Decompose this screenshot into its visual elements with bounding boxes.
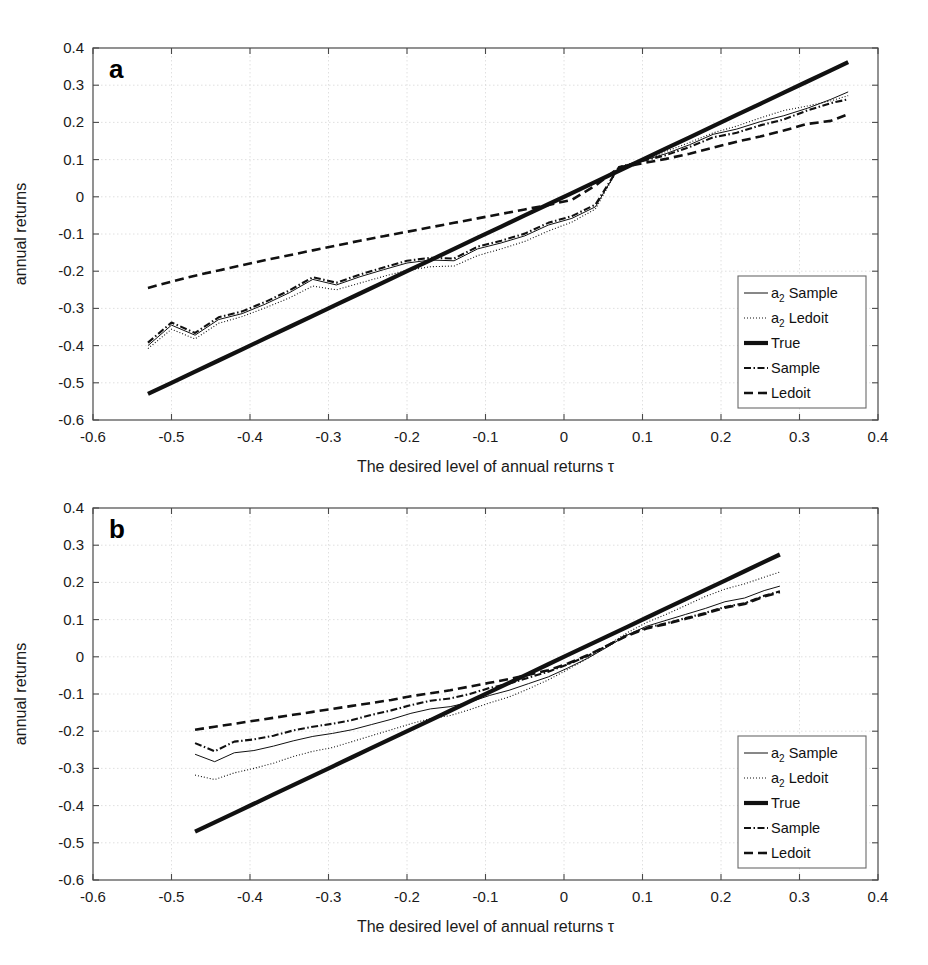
x-tick-label: -0.3 — [316, 428, 342, 445]
y-tick-label: -0.2 — [58, 262, 84, 279]
x-tick-label: -0.6 — [80, 888, 106, 905]
x-tick-label: 0 — [560, 888, 568, 905]
y-tick-label: 0 — [76, 188, 84, 205]
legend-label-sample: Sample — [771, 360, 820, 376]
y-tick-label: 0.3 — [63, 536, 84, 553]
series-line-a2-ledoit — [195, 572, 780, 780]
chart-panel-b: -0.6-0.5-0.4-0.3-0.2-0.100.10.20.30.4-0.… — [0, 460, 928, 965]
x-tick-label: 0.4 — [868, 888, 889, 905]
figure-page: -0.6-0.5-0.4-0.3-0.2-0.100.10.20.30.4-0.… — [0, 0, 928, 965]
y-tick-label: -0.1 — [58, 225, 84, 242]
y-tick-label: 0 — [76, 648, 84, 665]
legend-label-rest: Ledoit — [785, 310, 829, 326]
x-tick-label: 0 — [560, 428, 568, 445]
x-tick-label: 0.1 — [632, 888, 653, 905]
x-axis-title: The desired level of annual returns τ — [357, 918, 615, 935]
y-tick-label: 0.2 — [63, 573, 84, 590]
panel-letter-b: b — [109, 514, 125, 544]
legend-label-ledoit: Ledoit — [771, 385, 811, 401]
y-tick-label: -0.1 — [58, 685, 84, 702]
x-tick-label: 0.2 — [711, 428, 732, 445]
legend-label-true: True — [771, 795, 800, 811]
x-tick-label: 0.2 — [711, 888, 732, 905]
y-axis-title: annual returns — [12, 183, 29, 285]
legend-label-ledoit: Ledoit — [771, 845, 811, 861]
y-tick-label: -0.6 — [58, 411, 84, 428]
legend-label-true: True — [771, 335, 800, 351]
y-tick-label: 0.3 — [63, 76, 84, 93]
y-tick-label: 0.2 — [63, 113, 84, 130]
y-tick-label: -0.6 — [58, 871, 84, 888]
y-tick-label: -0.2 — [58, 722, 84, 739]
series-line-true — [195, 555, 780, 832]
x-tick-label: -0.4 — [237, 888, 263, 905]
chart-svg-b: -0.6-0.5-0.4-0.3-0.2-0.100.10.20.30.4-0.… — [0, 460, 928, 965]
x-tick-label: 0.3 — [789, 888, 810, 905]
x-tick-label: -0.1 — [473, 888, 499, 905]
x-tick-label: -0.5 — [159, 888, 185, 905]
legend-label-sample: Sample — [771, 820, 820, 836]
y-tick-label: 0.4 — [63, 499, 84, 516]
chart-panel-a: -0.6-0.5-0.4-0.3-0.2-0.100.10.20.30.4-0.… — [0, 0, 928, 482]
x-tick-label: -0.3 — [316, 888, 342, 905]
y-axis-title: annual returns — [12, 643, 29, 745]
y-tick-label: -0.5 — [58, 834, 84, 851]
y-tick-label: -0.4 — [58, 337, 84, 354]
x-tick-label: 0.3 — [789, 428, 810, 445]
x-tick-label: -0.2 — [394, 428, 420, 445]
series-line-sample — [195, 591, 780, 751]
x-tick-label: -0.1 — [473, 428, 499, 445]
y-tick-label: 0.1 — [63, 151, 84, 168]
x-tick-label: -0.2 — [394, 888, 420, 905]
y-tick-label: -0.3 — [58, 759, 84, 776]
x-tick-label: -0.4 — [237, 428, 263, 445]
x-tick-label: -0.6 — [80, 428, 106, 445]
chart-svg-a: -0.6-0.5-0.4-0.3-0.2-0.100.10.20.30.4-0.… — [0, 0, 928, 482]
series-line-a2-sample — [195, 586, 780, 762]
y-tick-label: -0.4 — [58, 797, 84, 814]
series-line-ledoit — [148, 114, 848, 288]
legend-label-rest: Ledoit — [785, 770, 829, 786]
x-tick-label: -0.5 — [159, 428, 185, 445]
y-tick-label: -0.5 — [58, 374, 84, 391]
y-tick-label: 0.4 — [63, 39, 84, 56]
legend-label-rest: Sample — [785, 745, 838, 761]
legend-label-rest: Sample — [785, 285, 838, 301]
x-tick-label: 0.1 — [632, 428, 653, 445]
panel-letter-a: a — [109, 54, 124, 84]
legend: a2 Samplea2 LedoitTrueSampleLedoit — [738, 276, 866, 408]
y-tick-label: -0.3 — [58, 299, 84, 316]
legend: a2 Samplea2 LedoitTrueSampleLedoit — [738, 736, 866, 868]
y-tick-label: 0.1 — [63, 611, 84, 628]
x-tick-label: 0.4 — [868, 428, 889, 445]
